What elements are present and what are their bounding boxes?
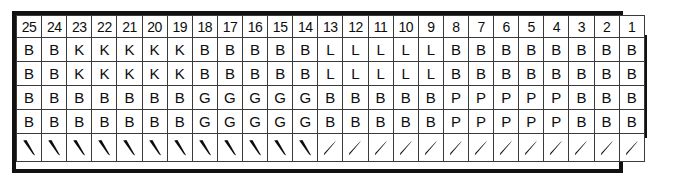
letter-cell: K <box>67 38 92 62</box>
letter-cell: K <box>167 38 192 62</box>
letter-cell: B <box>42 38 67 62</box>
letter-cell: L <box>368 62 393 86</box>
letter-cell: B <box>92 110 117 134</box>
letter-cell: P <box>443 86 468 110</box>
letter-cell: B <box>393 110 418 134</box>
letter-cell: K <box>67 62 92 86</box>
stroke-up-right-icon <box>594 134 619 162</box>
column-number-cell: 21 <box>117 16 142 38</box>
letter-cell: G <box>192 110 217 134</box>
letter-cell: P <box>519 110 544 134</box>
letter-cell: B <box>619 110 644 134</box>
stroke-down-right-icon <box>217 134 242 162</box>
column-number-cell: 25 <box>17 16 42 38</box>
stroke-up-right-icon <box>468 134 493 162</box>
letter-cell: G <box>293 86 318 110</box>
letter-cell: B <box>468 62 493 86</box>
letter-cell: B <box>167 86 192 110</box>
letter-cell: B <box>569 62 594 86</box>
letter-cell: B <box>42 62 67 86</box>
letter-cell: P <box>443 110 468 134</box>
letter-cell: B <box>594 38 619 62</box>
letter-cell: P <box>494 110 519 134</box>
letter-cell: P <box>468 110 493 134</box>
letter-cell: B <box>42 86 67 110</box>
letter-cell: B <box>142 86 167 110</box>
letter-cell: B <box>318 110 343 134</box>
column-number-cell: 22 <box>92 16 117 38</box>
column-number-cell: 24 <box>42 16 67 38</box>
stroke-up-right-icon <box>368 134 393 162</box>
column-number-header-row: 2524232221201918171615141312111098765432… <box>17 16 645 38</box>
column-number-cell: 10 <box>393 16 418 38</box>
letter-cell: B <box>569 110 594 134</box>
letter-cell: B <box>443 38 468 62</box>
table-row: BBKKKKKBBBBBLLLLLBBBBBBBB <box>17 38 645 62</box>
letter-cell: G <box>242 110 267 134</box>
stroke-down-right-icon <box>167 134 192 162</box>
letter-cell: B <box>544 62 569 86</box>
letter-cell: L <box>318 62 343 86</box>
table-row: BBBBBBBGGGGGBBBBBPPPPPBBB <box>17 110 645 134</box>
letter-cell: L <box>418 62 443 86</box>
column-number-cell: 12 <box>343 16 368 38</box>
column-number-cell: 7 <box>468 16 493 38</box>
letter-cell: G <box>217 110 242 134</box>
letter-cell: B <box>519 38 544 62</box>
letter-cell: P <box>544 110 569 134</box>
letter-cell: B <box>594 62 619 86</box>
stroke-up-right-icon <box>519 134 544 162</box>
letter-cell: B <box>17 62 42 86</box>
column-number-cell: 14 <box>293 16 318 38</box>
stroke-down-right-icon <box>117 134 142 162</box>
letter-cell: B <box>619 86 644 110</box>
letter-cell: B <box>418 110 443 134</box>
letter-cell: P <box>494 86 519 110</box>
stroke-down-right-icon <box>42 134 67 162</box>
letter-cell: L <box>318 38 343 62</box>
letter-cell: B <box>368 110 393 134</box>
letter-cell: P <box>519 86 544 110</box>
letter-cell: B <box>242 62 267 86</box>
letter-cell: B <box>42 110 67 134</box>
letter-cell: B <box>167 110 192 134</box>
table-row: BBBBBBBGGGGGBBBBBPPPPPBBB <box>17 86 645 110</box>
letter-cell: B <box>569 86 594 110</box>
letter-cell: B <box>368 86 393 110</box>
stroke-down-right-icon <box>268 134 293 162</box>
letter-cell: L <box>343 38 368 62</box>
letter-cell: B <box>343 110 368 134</box>
letter-cell: B <box>92 86 117 110</box>
stroke-down-right-icon <box>192 134 217 162</box>
letter-cell: K <box>142 38 167 62</box>
letter-cell: K <box>117 38 142 62</box>
letter-cell: K <box>142 62 167 86</box>
letter-cell: K <box>92 38 117 62</box>
letter-cell: B <box>619 62 644 86</box>
letter-cell: B <box>242 38 267 62</box>
letter-cell: B <box>468 38 493 62</box>
letter-cell: B <box>293 62 318 86</box>
letter-cell: B <box>17 110 42 134</box>
letter-cell: B <box>619 38 644 62</box>
diagram-canvas: 2524232221201918171615141312111098765432… <box>0 0 677 184</box>
letter-cell: B <box>594 110 619 134</box>
letter-cell: G <box>217 86 242 110</box>
letter-grid-table: 2524232221201918171615141312111098765432… <box>16 15 645 162</box>
column-number-cell: 13 <box>318 16 343 38</box>
column-number-cell: 8 <box>443 16 468 38</box>
letter-cell: B <box>318 86 343 110</box>
column-number-cell: 19 <box>167 16 192 38</box>
letter-cell: B <box>67 110 92 134</box>
letter-cell: B <box>142 110 167 134</box>
stroke-down-right-icon <box>92 134 117 162</box>
column-number-cell: 6 <box>494 16 519 38</box>
letter-cell: B <box>393 86 418 110</box>
letter-cell: B <box>268 38 293 62</box>
letter-cell: B <box>217 62 242 86</box>
column-number-cell: 15 <box>268 16 293 38</box>
column-number-cell: 17 <box>217 16 242 38</box>
column-number-cell: 3 <box>569 16 594 38</box>
letter-cell: B <box>343 86 368 110</box>
letter-cell: G <box>192 86 217 110</box>
